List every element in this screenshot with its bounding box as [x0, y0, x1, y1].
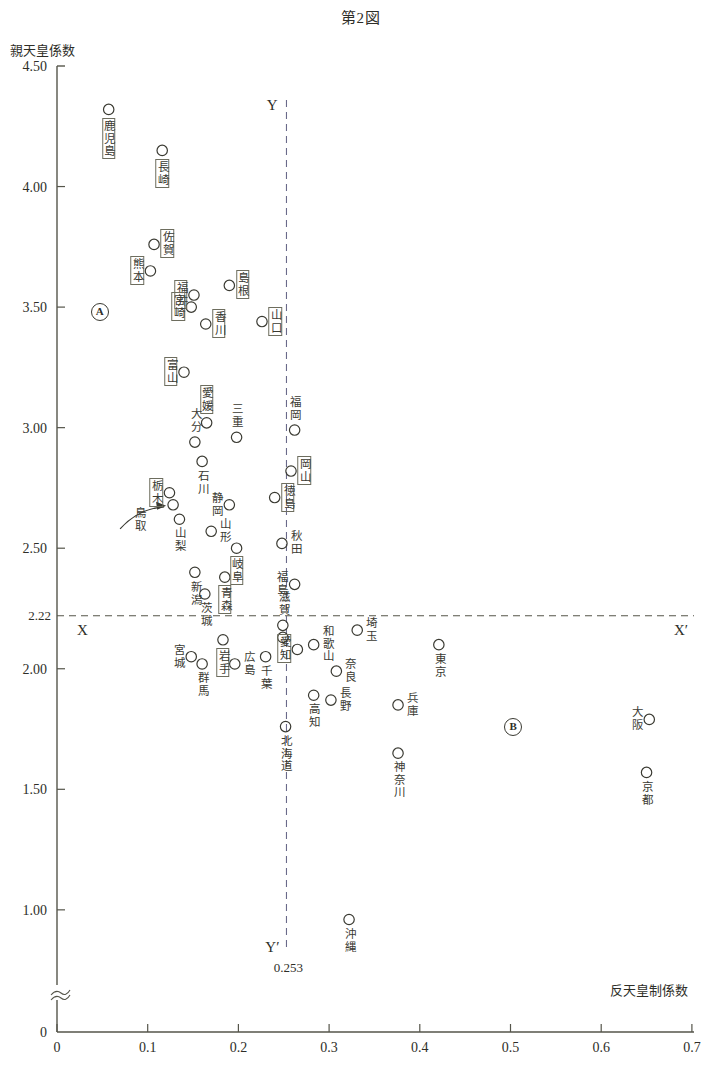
data-point-marker — [224, 280, 234, 290]
point-label: 群馬 — [196, 672, 208, 697]
point-label: 宮城 — [172, 644, 184, 669]
y-tick-label: 2.00 — [23, 662, 48, 677]
data-point-marker — [393, 700, 403, 710]
y-tick-label: 4.00 — [23, 180, 48, 195]
point-label: 高知 — [308, 703, 320, 728]
axis-break-icon — [51, 990, 70, 995]
point-label: 広島 — [242, 651, 254, 676]
data-point-marker — [393, 748, 403, 758]
point-label: 三重 — [231, 403, 243, 428]
x-tick-label: 0.3 — [320, 1040, 338, 1055]
data-point-marker — [641, 767, 651, 777]
data-point-marker — [186, 651, 196, 661]
scatter-plot-svg: 4.504.003.503.002.502.001.501.00000.10.2… — [0, 0, 721, 1072]
point-label: 沖縄 — [343, 928, 355, 953]
marker-b: B — [504, 718, 522, 736]
y-tick-label: 3.00 — [23, 421, 48, 436]
figure-container: 第2図 親天皇係数 反天皇制係数 4.504.003.503.002.502.0… — [0, 0, 721, 1072]
y-tick-label: 0 — [40, 1025, 47, 1040]
data-point-marker — [352, 625, 362, 635]
point-label: 栃木 — [150, 478, 164, 507]
data-point-marker — [289, 425, 299, 435]
point-label: 京都 — [641, 781, 653, 806]
axis-break-icon-2 — [51, 995, 70, 1000]
data-point-marker — [434, 639, 444, 649]
data-point-marker — [220, 572, 230, 582]
point-label: 奈良 — [344, 658, 356, 683]
data-point-marker — [257, 316, 267, 326]
data-point-marker — [280, 721, 290, 731]
axis-line-label-X: X — [77, 622, 88, 638]
point-label: 千葉 — [260, 665, 272, 690]
point-label: 愛知 — [277, 634, 291, 663]
point-label: 徳島 — [281, 483, 295, 512]
marker-a: A — [91, 303, 109, 321]
data-point-marker — [308, 690, 318, 700]
point-label: 福岡 — [289, 396, 301, 421]
data-point-marker — [218, 635, 228, 645]
data-point-marker — [145, 266, 155, 276]
data-point-marker — [201, 319, 211, 329]
y-tick-label: 2.50 — [23, 541, 48, 556]
point-label: 神奈川 — [392, 761, 404, 799]
point-label: 青森 — [218, 585, 232, 614]
point-label: 香川 — [212, 309, 226, 338]
threshold-x-value: 0.253 — [274, 960, 303, 975]
y-tick-label: 3.50 — [23, 300, 48, 315]
y-tick-label: 1.50 — [23, 782, 48, 797]
x-tick-label: 0.5 — [502, 1040, 520, 1055]
data-points-group — [103, 104, 654, 924]
point-label: 大阪 — [630, 706, 642, 731]
point-label: 石川 — [196, 470, 208, 495]
point-label: 岩手 — [216, 648, 230, 677]
data-point-marker — [331, 666, 341, 676]
x-tick-label: 0.1 — [139, 1040, 157, 1055]
point-label: 茨城 — [199, 602, 211, 627]
data-point-marker — [103, 104, 113, 114]
data-point-marker — [308, 639, 318, 649]
data-point-marker — [197, 456, 207, 466]
axis-line-label-Yprime: Y′ — [265, 939, 279, 955]
data-point-marker — [174, 514, 184, 524]
axis-line-label-Y: Y — [267, 97, 278, 113]
y-tick-label: 4.50 — [23, 59, 48, 74]
point-label: 山梨 — [174, 527, 186, 552]
point-label: 富山 — [164, 357, 178, 386]
y-tick-label: 1.00 — [23, 903, 48, 918]
data-point-marker — [260, 651, 270, 661]
data-point-marker — [157, 145, 167, 155]
data-point-marker — [230, 659, 240, 669]
data-point-marker — [189, 290, 199, 300]
point-label: 宮崎 — [171, 292, 185, 321]
point-label: 岐阜 — [230, 556, 244, 585]
point-label: 東京 — [433, 653, 445, 678]
data-point-marker — [197, 659, 207, 669]
point-label: 埼玉 — [365, 617, 377, 642]
data-point-marker — [286, 466, 296, 476]
reference-lines-group: 2.220.253XX′YY′ — [28, 97, 694, 975]
x-tick-label: 0 — [54, 1040, 61, 1055]
threshold-y-value: 2.22 — [28, 608, 51, 623]
point-label: 大分 — [189, 408, 201, 433]
x-tick-label: 0.2 — [230, 1040, 248, 1055]
point-label: 佐賀 — [160, 229, 174, 258]
data-point-marker — [168, 500, 178, 510]
point-label: 和歌山 — [321, 625, 333, 663]
x-tick-label: 0.6 — [592, 1040, 610, 1055]
x-tick-label: 0.4 — [411, 1040, 429, 1055]
point-label: 島根 — [236, 270, 250, 299]
data-point-marker — [224, 500, 234, 510]
data-point-marker — [344, 914, 354, 924]
point-label: 熊本 — [130, 256, 144, 285]
data-point-marker — [289, 579, 299, 589]
data-point-marker — [231, 543, 241, 553]
data-point-marker — [277, 538, 287, 548]
data-point-marker — [231, 432, 241, 442]
point-label: 鹿児島 — [102, 118, 116, 160]
point-label: 秋田 — [289, 530, 301, 555]
data-point-marker — [164, 488, 174, 498]
axes-group: 4.504.003.503.002.502.001.501.00000.10.2… — [23, 59, 701, 1055]
point-label: 滋賀 — [277, 591, 289, 616]
point-label: 兵庫 — [405, 692, 417, 717]
data-point-marker — [292, 644, 302, 654]
